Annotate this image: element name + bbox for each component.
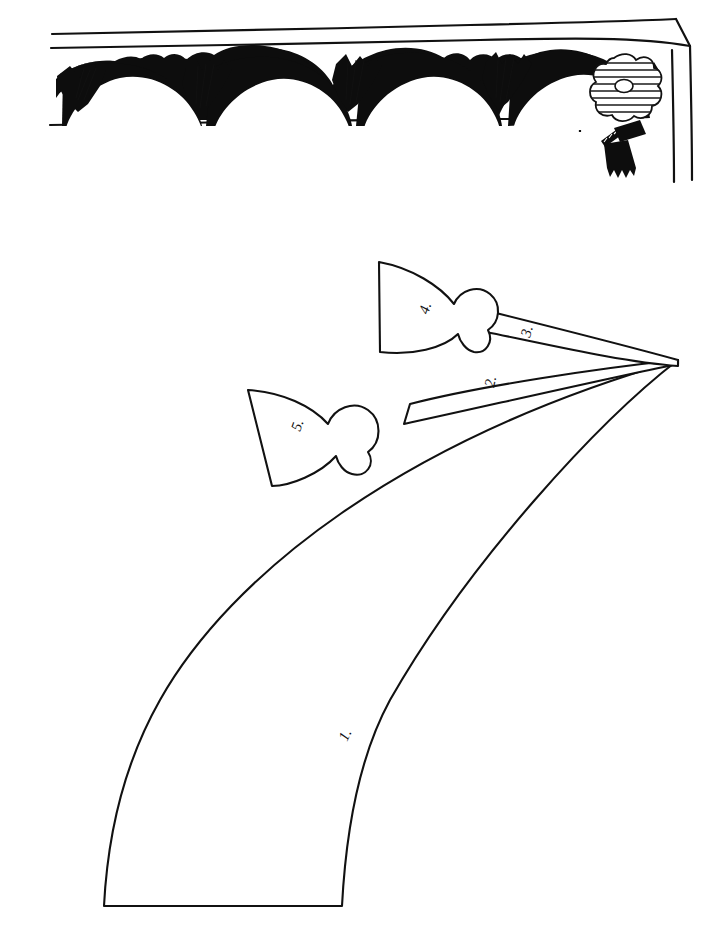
frame-top-inner-line <box>51 39 690 48</box>
piece-1-outline <box>104 360 678 906</box>
window-with-swag-valance-group <box>44 19 692 200</box>
piece-2-label: 2. <box>481 374 499 388</box>
illustration-page: 1. 2. 3. 4. 5. <box>0 0 722 943</box>
pattern-illustration: 1. 2. 3. 4. 5. <box>0 0 722 943</box>
frame-top-outer-line <box>52 19 676 34</box>
swag-baseline-mask <box>44 132 660 200</box>
frame-jamb-outer-line <box>690 46 692 180</box>
piece-3-outline <box>486 312 678 366</box>
swag-valance-group <box>44 45 660 200</box>
piece-5-outline <box>248 390 379 486</box>
pattern-pieces-group: 1. 2. 3. 4. 5. <box>104 262 678 906</box>
frame-jamb-inner-line <box>672 50 674 182</box>
rosette-center-eyelet <box>615 80 633 93</box>
frame-corner-bevel <box>676 19 690 46</box>
piece-4-outline <box>379 262 498 353</box>
